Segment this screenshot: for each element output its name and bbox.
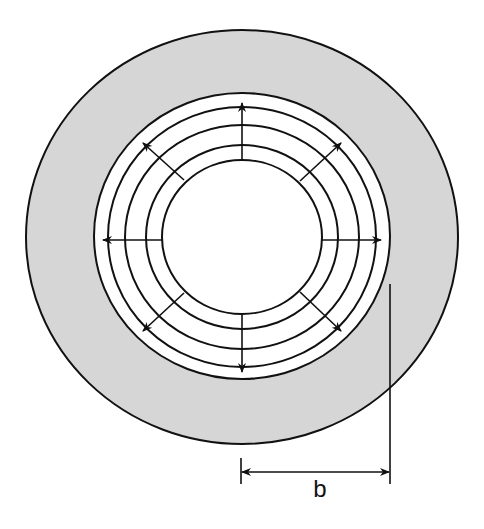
ring-5-inner-boundary <box>162 160 322 314</box>
cross-section-diagram: b <box>0 0 484 529</box>
dimension-label-b: b <box>313 475 326 502</box>
